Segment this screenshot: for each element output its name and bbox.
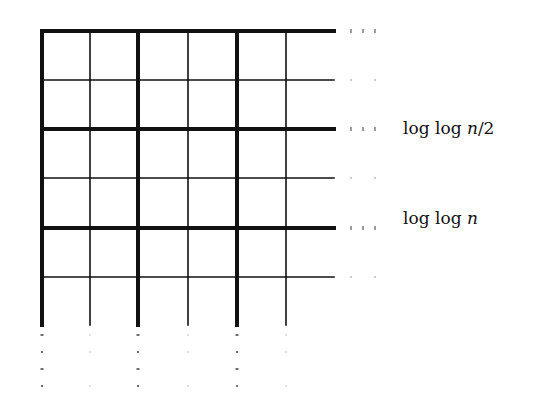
continuation-dot — [374, 177, 375, 179]
continuation-dot — [362, 29, 364, 33]
label-suffix: /2 — [478, 118, 495, 138]
label-text: log log — [403, 208, 467, 228]
continuation-dot — [374, 226, 376, 230]
continuation-dot — [187, 351, 188, 353]
continuation-dot — [41, 368, 44, 370]
grid-diagram — [0, 0, 536, 411]
continuation-dot — [374, 127, 376, 131]
continuation-dot — [350, 127, 352, 131]
label-var: n — [467, 118, 478, 138]
continuation-dot — [350, 29, 352, 33]
continuation-dot — [350, 79, 351, 81]
continuation-dot — [285, 351, 286, 353]
continuation-dot — [236, 385, 238, 387]
continuation-dot — [236, 334, 239, 336]
continuation-dot — [374, 79, 375, 81]
continuation-dot — [350, 226, 352, 230]
label-text: log log — [403, 118, 467, 138]
label-loglog-n-half: log log n/2 — [403, 118, 494, 138]
continuation-dot — [89, 385, 90, 387]
continuation-dot — [285, 385, 286, 387]
continuation-dot — [236, 351, 238, 353]
continuation-dot — [137, 334, 140, 336]
continuation-dot — [41, 334, 44, 336]
label-var: n — [467, 208, 478, 228]
continuation-dot — [187, 385, 188, 387]
continuation-dot — [41, 351, 43, 353]
continuation-dot — [285, 334, 286, 336]
continuation-dot — [137, 351, 139, 353]
continuation-dot — [89, 351, 90, 353]
continuation-dot — [137, 385, 139, 387]
continuation-dot — [362, 127, 364, 131]
continuation-dot — [89, 334, 90, 336]
label-loglog-n: log log n — [403, 208, 478, 228]
continuation-dot — [374, 276, 375, 278]
continuation-dot — [350, 177, 351, 179]
continuation-dot — [187, 334, 188, 336]
continuation-dot — [137, 368, 140, 370]
continuation-dot — [350, 276, 351, 278]
continuation-dot — [41, 385, 43, 387]
continuation-dot — [374, 29, 376, 33]
continuation-dot — [236, 368, 239, 370]
continuation-dot — [362, 226, 364, 230]
